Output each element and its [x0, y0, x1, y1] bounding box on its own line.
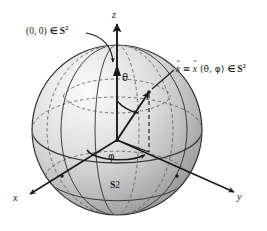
- sphere-set-exponent: 2: [115, 180, 120, 190]
- origin-dot: [115, 138, 118, 141]
- sphere-surface-label: S2: [110, 181, 120, 191]
- y-axis-label: y: [237, 192, 242, 203]
- z-axis-label: z: [112, 10, 116, 21]
- north-pole-set-exponent: 2: [65, 24, 68, 31]
- theta-label: θ: [122, 73, 128, 83]
- hat-accent-icon-2: ˆ: [193, 60, 196, 69]
- x-hat-symbol-1: ˆx: [176, 65, 180, 75]
- identical-to-icon: ≡: [183, 64, 191, 74]
- x-hat-symbol-2: ˆx: [193, 65, 197, 75]
- y-axis-intersection-dot: [175, 174, 178, 177]
- element-of-icon-2: ∈: [227, 64, 235, 74]
- phi-label: φ: [108, 152, 115, 162]
- x-axis-label: x: [13, 193, 18, 204]
- point-label-arguments: (θ, φ): [200, 64, 224, 74]
- element-of-icon: ∈: [50, 26, 58, 36]
- north-pole-label: (0, 0)∈S2: [26, 25, 68, 37]
- x-axis-intersection-dot: [60, 174, 63, 177]
- north-pole-coords: (0, 0): [26, 26, 47, 36]
- spherical-coordinates-figure: z x y θ φ (0, 0)∈S2 ˆx≡ˆx(θ, φ)∈S2 S2: [0, 0, 267, 231]
- point-label-set-exponent: 2: [243, 62, 246, 69]
- unit-vector-tip-dot: [147, 90, 151, 94]
- hat-accent-icon: ˆ: [177, 60, 180, 69]
- point-label: ˆx≡ˆx(θ, φ)∈S2: [176, 63, 246, 75]
